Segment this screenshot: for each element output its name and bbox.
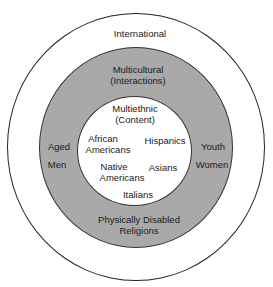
label-italians: Italians (123, 189, 153, 200)
label-multiethnic: Multiethnic (112, 103, 157, 114)
label-men: Men (48, 159, 66, 170)
label-african: African (88, 133, 118, 144)
label-multicultural: Multicultural (113, 64, 164, 75)
label-aged: Aged (48, 141, 70, 152)
label-religions: Religions (119, 225, 158, 236)
label-youth: Youth (201, 141, 225, 152)
label-native: Native (101, 161, 128, 172)
label-hispanics: Hispanics (144, 135, 185, 146)
label-content: (Content) (115, 114, 155, 125)
label-physically-disabled: Physically Disabled (98, 214, 180, 225)
label-asians: Asians (149, 162, 178, 173)
label-native-americans: Americans (100, 172, 145, 183)
label-interactions: (Interactions) (110, 75, 165, 86)
label-women: Women (196, 159, 229, 170)
label-international: International (114, 28, 166, 39)
label-african-americans: Americans (86, 144, 131, 155)
